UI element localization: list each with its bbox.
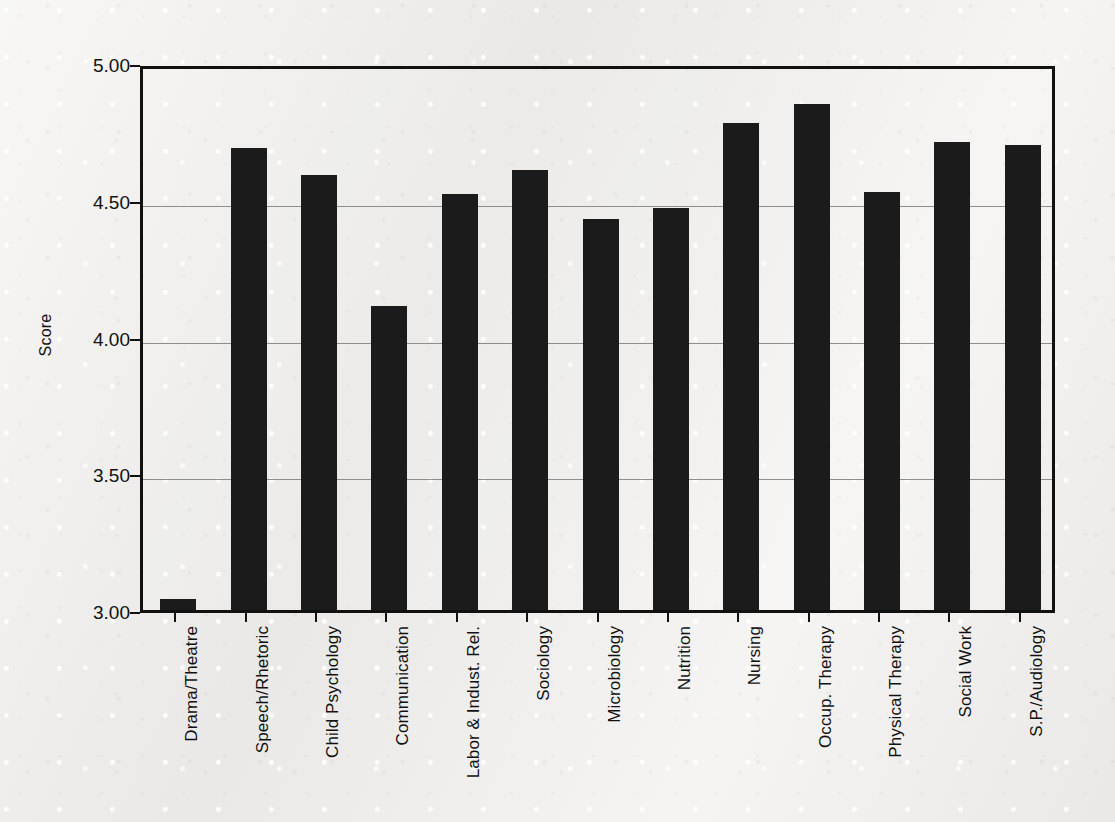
x-axis-tick-mark	[245, 613, 247, 622]
bar	[512, 170, 548, 610]
bar	[583, 219, 619, 610]
plot-area	[140, 66, 1055, 613]
x-axis-tick-label: Social Work	[956, 626, 976, 717]
bar	[1005, 145, 1041, 610]
y-axis-tick-mark	[130, 612, 140, 614]
y-axis-tick-mark	[130, 65, 140, 67]
bar	[794, 104, 830, 610]
bar	[231, 148, 267, 610]
x-axis-tick-mark	[456, 613, 458, 622]
bar	[934, 142, 970, 610]
y-axis-tick-mark	[130, 339, 140, 341]
bar	[653, 208, 689, 610]
x-axis-tick-mark	[667, 613, 669, 622]
y-axis-title: Score	[37, 275, 55, 395]
bar	[442, 194, 478, 610]
y-axis-tick-label: 5.00	[58, 55, 130, 77]
x-axis-tick-label: Labor & Indust. Rel.	[464, 626, 484, 778]
bar	[864, 192, 900, 610]
x-axis-tick-mark	[385, 613, 387, 622]
x-axis-tick-mark	[526, 613, 528, 622]
x-axis-tick-label: Nutrition	[675, 626, 695, 690]
x-axis-tick-label: S.P./Audiology	[1027, 626, 1047, 737]
x-axis-tick-label: Occup. Therapy	[816, 626, 836, 748]
bar	[301, 175, 337, 610]
bar	[371, 306, 407, 610]
x-axis-tick-label: Microbiology	[605, 626, 625, 723]
x-axis-tick-mark	[737, 613, 739, 622]
x-axis-tick-mark	[948, 613, 950, 622]
x-axis-tick-mark	[315, 613, 317, 622]
y-axis-tick-label: 3.00	[58, 602, 130, 624]
y-axis-tick-label: 4.50	[58, 192, 130, 214]
x-axis-tick-mark	[878, 613, 880, 622]
x-axis-tick-label: Physical Therapy	[886, 626, 906, 758]
x-axis-tick-mark	[1019, 613, 1021, 622]
y-axis-tick-mark	[130, 202, 140, 204]
x-axis-tick-label: Nursing	[745, 626, 765, 685]
x-axis-tick-label: Speech/Rhetoric	[253, 626, 273, 753]
x-axis-tick-label: Drama/Theatre	[182, 626, 202, 742]
gridline	[143, 206, 1052, 207]
x-axis-tick-label: Child Psychology	[323, 626, 343, 758]
x-axis-tick-label: Sociology	[534, 626, 554, 701]
y-axis-tick-label: 4.00	[58, 329, 130, 351]
x-axis-tick-mark	[597, 613, 599, 622]
x-axis-tick-mark	[808, 613, 810, 622]
x-axis-tick-mark	[174, 613, 176, 622]
bar	[160, 599, 196, 610]
y-axis-tick-mark	[130, 475, 140, 477]
x-axis-tick-label: Communication	[393, 626, 413, 745]
bar	[723, 123, 759, 610]
y-axis-tick-label: 3.50	[58, 465, 130, 487]
bar-chart: Score 3.003.504.004.505.00 Drama/Theatre…	[0, 0, 1115, 822]
